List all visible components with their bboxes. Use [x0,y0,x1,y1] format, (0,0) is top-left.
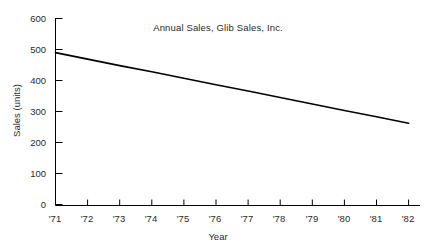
chart-plot-area [0,0,436,249]
chart-container: Annual Sales, Glib Sales, Inc. Sales (un… [0,0,436,249]
y-axis-ticks [56,19,63,205]
x-axis-ticks [88,200,409,206]
data-line-annual-sales [56,53,409,124]
